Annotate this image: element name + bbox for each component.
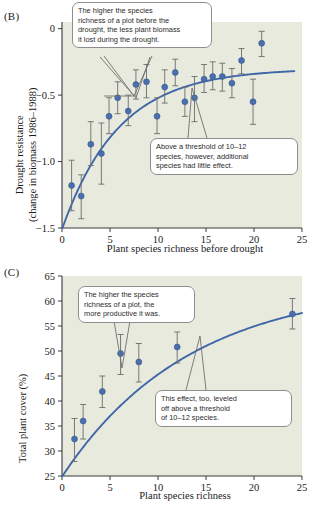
data-point <box>154 113 160 119</box>
data-point <box>250 99 256 105</box>
y-tick-label: 25 <box>45 471 56 482</box>
panel-b-y-axis-title-line1: Drought resistance <box>13 115 26 194</box>
data-point <box>182 99 188 105</box>
data-point <box>174 344 180 350</box>
y-tick-label: 45 <box>45 371 56 382</box>
data-point <box>99 389 105 395</box>
data-point <box>172 70 178 76</box>
figure-root: (B) 05101520250−0.5−1.0−1.5 Plant specie… <box>0 0 314 510</box>
callout-line: The higher the species <box>78 6 206 16</box>
y-tick-label: 30 <box>45 446 56 457</box>
data-point <box>289 311 295 317</box>
data-point <box>143 79 149 85</box>
panel-c-y-axis-title: Total plant cover (%) <box>17 374 28 463</box>
panel-b-y-axis-title: Drought resistance (change in biomass 19… <box>13 88 39 222</box>
data-point <box>88 141 94 147</box>
callout-line: richness of a plot, the <box>84 300 189 310</box>
y-tick-label: 0 <box>50 23 55 34</box>
data-point <box>162 84 168 90</box>
callout-line: it lost during the drought. <box>78 35 206 45</box>
data-point <box>201 76 207 82</box>
callout-line: drought, the less plant biomass <box>78 25 206 35</box>
panel-c: (C) 0510152025253035404550556065 Plant s… <box>0 258 314 510</box>
callout-line: species, however, additional <box>156 152 292 162</box>
data-point <box>229 80 235 86</box>
callout-threshold: Above a threshold of 10–12 species, howe… <box>150 138 298 175</box>
callout-line: of 10–12 species. <box>161 413 286 423</box>
callout-productivity: The higher the species richness of a plo… <box>78 286 195 323</box>
panel-b-y-axis-title-line2: (change in biomass 1986–1988) <box>26 88 39 222</box>
y-tick-label: 50 <box>45 346 56 357</box>
callout-line: Above a threshold of 10–12 <box>156 142 292 152</box>
panel-c-x-axis-title: Plant species richness <box>60 490 310 501</box>
callout-line: off above a threshold <box>161 404 286 414</box>
data-point <box>136 359 142 365</box>
callout-leveled-off: This effect, too, leveled off above a th… <box>155 390 292 427</box>
data-point <box>71 436 77 442</box>
y-tick-label: 40 <box>45 396 56 407</box>
panel-b: (B) 05101520250−0.5−1.0−1.5 Plant specie… <box>0 0 314 262</box>
data-point <box>219 73 225 79</box>
data-point <box>98 151 104 157</box>
callout-line: The higher the species <box>84 290 189 300</box>
callout-richness-biomass: The higher the species richness of a plo… <box>72 2 212 48</box>
callout-line: species had little effect. <box>156 161 292 171</box>
panel-b-x-axis-title: Plant species richness before drought <box>60 243 310 254</box>
data-point <box>80 418 86 424</box>
data-point <box>118 351 124 357</box>
callout-line: richness of a plot before the <box>78 16 206 26</box>
data-point <box>210 73 216 79</box>
y-tick-label: 55 <box>45 321 56 332</box>
data-point <box>239 58 245 64</box>
y-tick-label: 65 <box>45 271 56 282</box>
y-tick-label: 35 <box>45 421 56 432</box>
data-point <box>78 193 84 199</box>
y-tick-label: 60 <box>45 296 56 307</box>
y-tick-label: −1.5 <box>36 223 55 234</box>
callout-line: This effect, too, leveled <box>161 394 286 404</box>
callout-line: more productive it was. <box>84 309 189 319</box>
plot-background <box>62 22 302 228</box>
data-point <box>259 40 265 46</box>
data-point <box>106 113 112 119</box>
data-point <box>69 182 75 188</box>
data-point <box>125 108 131 114</box>
